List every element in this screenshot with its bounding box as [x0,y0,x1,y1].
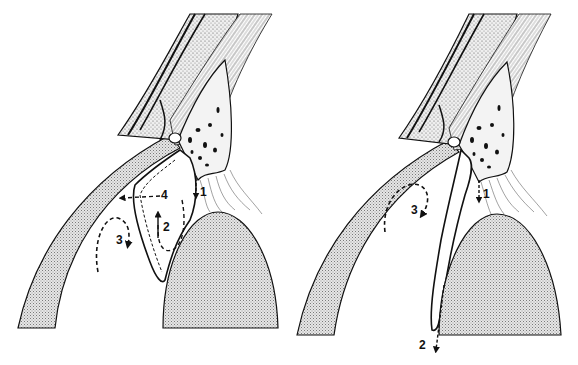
label-3: 3 [116,234,123,246]
label-2: 2 [419,339,426,351]
right-anatomy-drawing [289,0,578,365]
label-1: 1 [483,188,490,200]
label-4: 4 [161,189,168,201]
label-1: 1 [200,186,207,198]
left-panel: 1 2 3 4 [0,0,289,365]
label-2: 2 [163,221,170,233]
right-panel: 1 2 3 [289,0,578,365]
left-anatomy-drawing [0,0,289,365]
label-3: 3 [411,204,418,216]
